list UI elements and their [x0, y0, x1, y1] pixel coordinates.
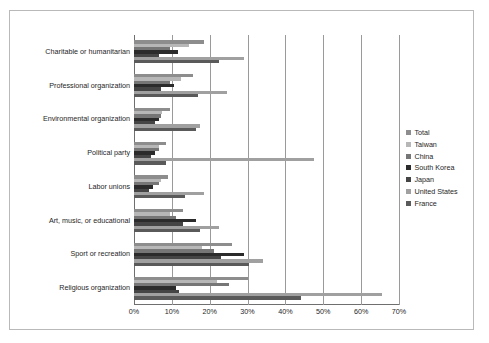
bar-group — [134, 103, 399, 137]
legend-swatch-icon — [406, 201, 411, 206]
bar-row — [134, 229, 399, 232]
chart-frame: Charitable or humanitarianProfessional o… — [9, 10, 474, 330]
category-axis: Charitable or humanitarianProfessional o… — [10, 35, 130, 305]
x-tick-label: 0% — [129, 307, 139, 316]
legend-label: Japan — [415, 176, 435, 183]
legend-item-japan[interactable]: Japan — [406, 176, 484, 183]
legend-label: South Korea — [415, 164, 455, 171]
value-axis-ticks: 0%10%20%30%40%50%60%70% — [134, 307, 405, 321]
category-label: Sport or recreation — [70, 250, 130, 257]
legend-swatch-icon — [406, 142, 411, 147]
x-tick-label: 60% — [354, 307, 368, 316]
bar-row — [134, 296, 399, 299]
x-tick-label: 20% — [203, 307, 217, 316]
x-tick-label: 70% — [392, 307, 406, 316]
x-tick-label: 40% — [278, 307, 292, 316]
plot-area — [134, 35, 399, 305]
legend-item-total[interactable]: Total — [406, 129, 484, 136]
bar-row — [134, 161, 399, 164]
legend-item-united-states[interactable]: United States — [406, 188, 484, 195]
bar[interactable] — [134, 161, 166, 164]
legend-item-china[interactable]: China — [406, 153, 484, 160]
bar-group — [134, 35, 399, 69]
x-tick-label: 10% — [165, 307, 179, 316]
bar-row — [134, 128, 399, 131]
gridline-70 — [399, 35, 400, 305]
bar-row — [134, 60, 399, 63]
legend-label: France — [415, 200, 437, 207]
bar[interactable] — [134, 229, 200, 232]
legend-item-south-korea[interactable]: South Korea — [406, 164, 484, 171]
category-label: Art, music, or educational — [49, 217, 130, 224]
category-label: Environmental organization — [43, 115, 130, 122]
bar-group — [134, 204, 399, 238]
legend-item-france[interactable]: France — [406, 200, 484, 207]
bar-group — [134, 238, 399, 272]
legend-item-taiwan[interactable]: Taiwan — [406, 141, 484, 148]
legend-label: United States — [415, 188, 458, 195]
x-tick-label: 50% — [316, 307, 330, 316]
bar[interactable] — [134, 128, 196, 131]
category-label: Political party — [87, 149, 130, 156]
bar-group — [134, 170, 399, 204]
bar[interactable] — [134, 60, 219, 63]
bar-row — [134, 195, 399, 198]
bar[interactable] — [134, 263, 249, 266]
legend-label: China — [415, 153, 434, 160]
legend-label: Taiwan — [415, 141, 437, 148]
category-label: Religious organization — [59, 284, 130, 291]
bar[interactable] — [134, 94, 198, 97]
x-tick-label: 30% — [240, 307, 254, 316]
bar-group — [134, 69, 399, 103]
legend-swatch-icon — [406, 154, 411, 159]
legend-swatch-icon — [406, 130, 411, 135]
legend-label: Total — [415, 129, 430, 136]
bar[interactable] — [134, 296, 301, 299]
bar[interactable] — [134, 195, 185, 198]
legend-swatch-icon — [406, 165, 411, 170]
category-label: Labor unions — [88, 183, 130, 190]
bar-group — [134, 136, 399, 170]
category-label: Charitable or humanitarian — [45, 48, 130, 55]
legend-swatch-icon — [406, 177, 411, 182]
category-label: Professional organization — [49, 82, 130, 89]
legend-swatch-icon — [406, 189, 411, 194]
bar-row — [134, 263, 399, 266]
bar-group — [134, 271, 399, 305]
chart-legend: TotalTaiwanChinaSouth KoreaJapanUnited S… — [406, 129, 484, 212]
bar-row — [134, 94, 399, 97]
